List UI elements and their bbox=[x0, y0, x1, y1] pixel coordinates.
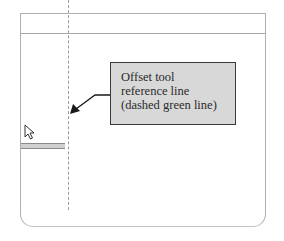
arrow-pointer-icon bbox=[24, 124, 36, 140]
offset-reference-line[interactable] bbox=[68, 0, 69, 210]
annotation-callout: Offset tool reference line (dashed green… bbox=[110, 62, 236, 125]
callout-line-3: (dashed green line) bbox=[121, 98, 235, 112]
callout-line-1: Offset tool bbox=[121, 70, 235, 84]
cursor-tooltip bbox=[21, 143, 65, 149]
callout-line-2: reference line bbox=[121, 84, 235, 98]
horizontal-edge-line bbox=[20, 33, 266, 34]
